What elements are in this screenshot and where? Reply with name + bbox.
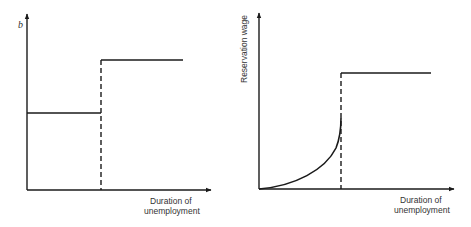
left-x-axis-label-line2: unemployment: [144, 206, 200, 216]
right-x-axis-label-line1: Duration of: [400, 195, 442, 205]
right-x-axis-label-line2: unemployment: [394, 205, 450, 215]
right-panel: Reservation wage Duration of unemploymen…: [239, 13, 454, 215]
left-panel: b Duration of unemployment: [18, 14, 211, 216]
diagram-canvas: b Duration of unemployment Reservation w…: [0, 0, 471, 227]
reservation-wage-curve: [259, 118, 341, 189]
left-x-axis-label-line1: Duration of: [150, 196, 192, 206]
left-y-axis-label: b: [18, 19, 23, 30]
right-y-axis-label: Reservation wage: [239, 15, 249, 83]
